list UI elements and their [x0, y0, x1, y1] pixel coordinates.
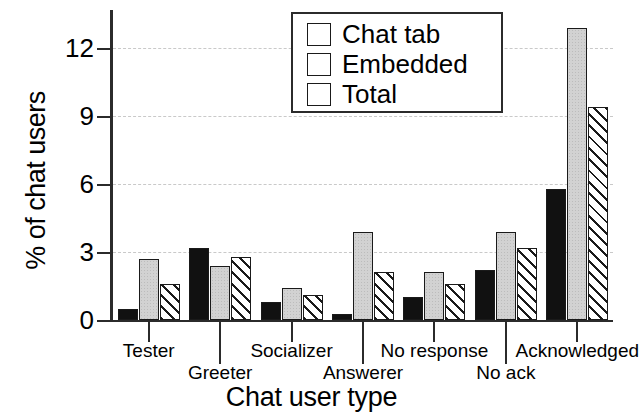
y-axis-tick-label: 3 — [80, 239, 94, 265]
bar — [496, 232, 516, 320]
bar — [160, 284, 180, 320]
bar — [424, 272, 444, 320]
x-axis-tick — [219, 322, 221, 364]
legend-item-embedded: Embedded — [307, 49, 501, 79]
y-axis-tick-label: 9 — [80, 103, 94, 129]
bar — [282, 288, 302, 320]
bar — [139, 259, 159, 320]
x-axis-tick — [505, 322, 507, 364]
bar — [445, 284, 465, 320]
legend-label-chat-tab: Chat tab — [342, 21, 440, 47]
legend-label-total: Total — [342, 81, 397, 107]
bar — [118, 309, 138, 320]
x-axis-tick-label: No ack — [476, 363, 535, 383]
bar — [374, 272, 394, 320]
bar — [353, 232, 373, 320]
x-axis-tick — [148, 322, 150, 342]
x-axis-tick — [433, 322, 435, 342]
bar — [303, 295, 323, 320]
chart-legend: Chat tab Embedded Total — [291, 12, 503, 113]
bar-group — [546, 10, 608, 320]
bar — [210, 266, 230, 320]
bar-group — [118, 10, 180, 320]
bar — [403, 297, 423, 320]
y-axis-tick — [97, 320, 110, 322]
bar — [261, 302, 281, 320]
y-axis-title: % of chat users — [21, 41, 52, 321]
x-axis-tick-label: Answerer — [323, 363, 403, 383]
bar — [567, 28, 587, 320]
bar — [546, 189, 566, 320]
legend-item-chat-tab: Chat tab — [307, 19, 501, 49]
x-axis-tick-label: Socializer — [250, 341, 332, 361]
bar — [475, 270, 495, 320]
y-axis-tick-label: 0 — [80, 307, 94, 333]
x-axis-tick — [362, 322, 364, 364]
x-axis-tick-label: No response — [381, 341, 489, 361]
solid-black-swatch-icon — [307, 23, 331, 46]
x-axis-tick-label: Greeter — [188, 363, 252, 383]
x-axis-tick-label: Acknowledged — [515, 341, 639, 361]
bar — [231, 257, 251, 320]
bar — [517, 248, 537, 320]
light-gray-swatch-icon — [307, 53, 331, 76]
y-axis-tick — [97, 116, 110, 118]
hatched-swatch-icon — [307, 83, 331, 106]
legend-label-embedded: Embedded — [342, 51, 468, 77]
bar-group — [189, 10, 251, 320]
x-axis-tick — [576, 322, 578, 342]
bar — [332, 314, 352, 320]
y-axis-tick-label: 6 — [80, 171, 94, 197]
y-axis-tick — [97, 252, 110, 254]
x-axis-tick — [291, 322, 293, 342]
legend-item-total: Total — [307, 79, 501, 109]
y-axis-tick — [97, 48, 110, 50]
y-axis-tick-label: 12 — [65, 35, 94, 61]
bar — [189, 248, 209, 320]
bar — [588, 107, 608, 320]
x-axis-tick-label: Tester — [123, 341, 175, 361]
x-axis-title: Chat user type — [0, 382, 623, 413]
y-axis-tick — [97, 184, 110, 186]
